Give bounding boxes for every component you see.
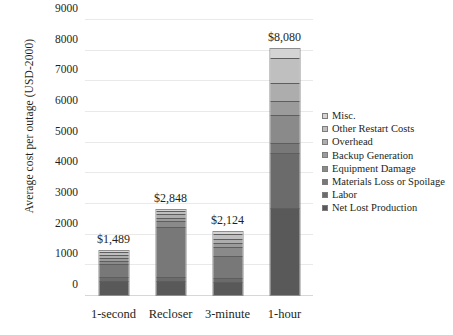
legend-item-label: Equipment Damage (332, 163, 416, 175)
bar-segment[interactable] (270, 59, 299, 84)
legend-item[interactable]: Net Lost Production (322, 202, 445, 214)
y-axis-tick-label: 2000 (55, 217, 78, 229)
stacked-bar[interactable] (98, 250, 129, 296)
y-axis-tick-label: 1000 (55, 247, 78, 259)
bar-slot: $2,1243-minute (199, 20, 256, 296)
legend-item[interactable]: Materials Loss or Spoilage (322, 176, 445, 188)
legend-item[interactable]: Labor (322, 189, 445, 201)
legend-item[interactable]: Misc. (322, 110, 445, 122)
x-axis-tick-label: 3-minute (205, 307, 250, 322)
legend: Misc.Other Restart CostsOverheadBackup G… (322, 110, 445, 216)
bar-segment[interactable] (270, 84, 299, 102)
bar-segment[interactable] (270, 209, 299, 295)
bar-total-label: $2,124 (211, 213, 244, 228)
y-axis-tick-label: 6000 (55, 94, 78, 106)
bar-total-label: $8,080 (268, 30, 301, 45)
bar-segment[interactable] (270, 49, 299, 59)
x-axis-tick-label: Recloser (149, 307, 193, 322)
legend-item-label: Labor (332, 189, 357, 201)
legend-swatch-icon (322, 139, 328, 145)
bar-total-label: $1,489 (97, 232, 130, 247)
bar-slot: $8,0801-hour (256, 20, 313, 296)
bar-segment[interactable] (270, 144, 299, 154)
bar-segment[interactable] (270, 102, 299, 116)
legend-swatch-icon (322, 166, 328, 172)
stacked-bar-chart: Average cost per outage (USD-2000) 01000… (0, 0, 453, 335)
y-axis-title: Average cost per outage (USD-2000) (23, 1, 35, 251)
bar-segment[interactable] (99, 265, 128, 278)
bar-slot: $2,848Recloser (142, 20, 199, 296)
y-axis-tick-label: 4000 (55, 155, 78, 167)
legend-item-label: Other Restart Costs (332, 123, 414, 135)
bar-segment[interactable] (213, 257, 242, 279)
legend-item[interactable]: Overhead (322, 136, 445, 148)
stacked-bar[interactable] (155, 209, 186, 296)
legend-item-label: Misc. (332, 110, 356, 122)
legend-item[interactable]: Equipment Damage (322, 163, 445, 175)
legend-item-label: Backup Generation (332, 150, 413, 162)
legend-item-label: Overhead (332, 136, 373, 148)
y-axis-tick-label: 3000 (55, 186, 78, 198)
stacked-bar[interactable] (212, 231, 243, 296)
y-axis-tick-label: 5000 (55, 125, 78, 137)
legend-item-label: Net Lost Production (332, 202, 417, 214)
legend-swatch-icon (322, 152, 328, 158)
bar-segment[interactable] (156, 228, 185, 277)
legend-item[interactable]: Other Restart Costs (322, 123, 445, 135)
bar-total-label: $2,848 (154, 191, 187, 206)
x-axis-tick-label: 1-hour (268, 307, 301, 322)
y-axis-tick-label: 9000 (55, 2, 78, 14)
x-axis-tick-label: 1-second (91, 307, 136, 322)
bar-segment[interactable] (213, 248, 242, 256)
legend-swatch-icon (322, 205, 328, 211)
bar-slot: $1,4891-second (85, 20, 142, 296)
bar-segment[interactable] (270, 154, 299, 210)
bar-segment[interactable] (270, 116, 299, 144)
legend-item[interactable]: Backup Generation (322, 150, 445, 162)
y-axis-tick-label: 8000 (55, 33, 78, 45)
y-axis-tick-label: 7000 (55, 63, 78, 75)
y-axis-tick-label: 0 (72, 278, 78, 290)
bar-segment[interactable] (156, 282, 185, 295)
bar-segment[interactable] (213, 283, 242, 295)
legend-swatch-icon (322, 126, 328, 132)
bar-segment[interactable] (99, 282, 128, 295)
plot-area: 0100020003000400050006000700080009000 $1… (85, 20, 313, 296)
legend-item-label: Materials Loss or Spoilage (332, 176, 445, 188)
stacked-bar[interactable] (269, 48, 300, 296)
legend-swatch-icon (322, 113, 328, 119)
legend-swatch-icon (322, 192, 328, 198)
legend-swatch-icon (322, 179, 328, 185)
